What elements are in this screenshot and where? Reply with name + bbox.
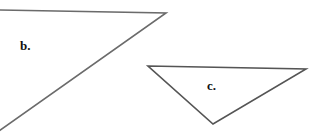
label-b: b. bbox=[20, 39, 30, 52]
triangle-c bbox=[148, 66, 306, 124]
label-c: c. bbox=[207, 79, 216, 92]
triangle-b bbox=[0, 10, 166, 133]
triangles-svg bbox=[0, 0, 312, 135]
triangle-figure: b. c. bbox=[0, 0, 312, 135]
